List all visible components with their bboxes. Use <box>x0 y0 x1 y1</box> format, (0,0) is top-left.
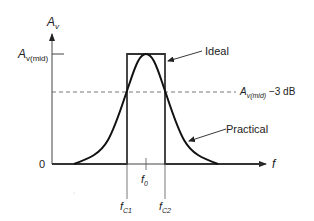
origin-label: 0 <box>39 158 45 170</box>
practical-label: Practical <box>226 123 268 135</box>
bandpass-response-diagram: Av f 0 Av(mid) Av(mid) −3 dB f0 fC1 fC2 … <box>0 0 314 221</box>
f0-label: f0 <box>141 173 148 187</box>
y-axis-label: Av <box>46 15 60 31</box>
ideal-label: Ideal <box>205 45 229 57</box>
x-axis-label: f <box>272 157 277 171</box>
minus-3db-label: Av(mid) −3 dB <box>239 86 296 100</box>
fc2-label: fC2 <box>159 200 171 214</box>
fc1-label: fC1 <box>120 200 132 214</box>
stray-dot <box>73 192 74 193</box>
practical-response-curve <box>74 54 218 164</box>
practical-pointer-arrow <box>189 129 226 141</box>
ideal-pointer-arrow <box>168 51 202 61</box>
mid-gain-label: Av(mid) <box>17 47 49 63</box>
